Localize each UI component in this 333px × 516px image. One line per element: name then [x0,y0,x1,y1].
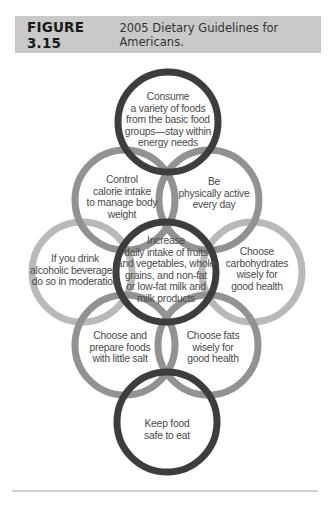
label-top: Consume a variety of foods from the basi… [125,91,211,149]
label-lower-right: Choose fats wisely for good health [187,330,240,365]
label-lower-left: Choose and prepare foods with little sal… [90,330,151,365]
label-right: Choose carbohydrates wisely for good hea… [226,246,289,292]
label-left: If you drink alcoholic beverages, do so … [30,253,120,288]
label-upper-right: Be physically active every day [179,176,250,211]
label-upper-left: Control calorie intake to manage body we… [86,174,157,220]
label-center: Increase daily intake of fruits and vege… [117,235,215,305]
bottom-divider [12,490,318,492]
label-bottom: Keep food safe to eat [144,418,190,441]
